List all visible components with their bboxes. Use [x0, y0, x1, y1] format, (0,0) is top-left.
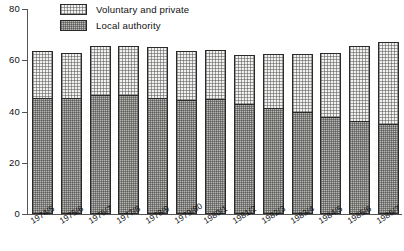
- y-axis-tick-label: 40: [0, 107, 20, 117]
- y-axis-tick-label: 80: [0, 4, 20, 14]
- bar-segment-local-authority: [293, 112, 312, 213]
- bar-1983-4: [292, 54, 313, 214]
- bar-segment-local-authority: [264, 108, 283, 213]
- bar-segment-voluntary-and-private: [62, 54, 81, 98]
- y-axis-tick-label: 60: [0, 55, 20, 65]
- bar-1977-8: [118, 46, 139, 214]
- bar-1980-1: [205, 50, 226, 214]
- bar-segment-local-authority: [62, 98, 81, 213]
- plot-area: [27, 9, 402, 214]
- bar-segment-voluntary-and-private: [293, 55, 312, 112]
- bar-segment-local-authority: [350, 121, 369, 213]
- bar-1975-6: [61, 53, 82, 214]
- bar-segment-local-authority: [119, 95, 138, 213]
- bar-segment-local-authority: [321, 117, 340, 213]
- bar-1986-7: [378, 42, 399, 214]
- bar-segment-local-authority: [177, 100, 196, 213]
- bar-segment-local-authority: [33, 98, 52, 213]
- bar-1976-7: [90, 46, 111, 214]
- bar-1985-6: [349, 46, 370, 214]
- bar-1979-80: [176, 51, 197, 214]
- bar-segment-voluntary-and-private: [206, 51, 225, 99]
- bar-segment-local-authority: [148, 98, 167, 213]
- y-axis-tick-label: 0: [0, 209, 20, 219]
- bar-1974-5: [32, 51, 53, 214]
- bar-segment-voluntary-and-private: [350, 47, 369, 120]
- bar-segment-voluntary-and-private: [119, 47, 138, 95]
- bar-segment-voluntary-and-private: [33, 52, 52, 98]
- bar-segment-voluntary-and-private: [264, 55, 283, 108]
- bar-segment-local-authority: [235, 104, 254, 213]
- stacked-bar-chart: Voluntary and private Local authority 02…: [0, 0, 404, 251]
- bar-segment-local-authority: [379, 124, 398, 213]
- bar-segment-voluntary-and-private: [321, 54, 340, 117]
- bar-segment-voluntary-and-private: [91, 47, 110, 95]
- bar-1981-2: [234, 55, 255, 214]
- bar-segment-local-authority: [206, 99, 225, 213]
- bar-1978-9: [147, 47, 168, 214]
- bar-segment-voluntary-and-private: [235, 56, 254, 104]
- y-axis-tick-label: 20: [0, 158, 20, 168]
- bar-segment-local-authority: [91, 95, 110, 213]
- bar-1984-5: [320, 53, 341, 214]
- bar-segment-voluntary-and-private: [379, 43, 398, 124]
- y-axis-tick: [22, 214, 27, 215]
- bar-segment-voluntary-and-private: [177, 52, 196, 100]
- bar-segment-voluntary-and-private: [148, 48, 167, 97]
- bar-1982-3: [263, 54, 284, 214]
